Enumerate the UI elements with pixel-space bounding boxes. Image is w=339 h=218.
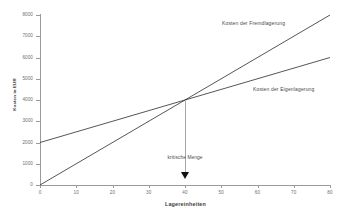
down-arrow-icon (181, 172, 189, 179)
series-label-fremdlagerung: Kosten der Fremdlagerung (222, 20, 285, 26)
kritische-menge-leader-line (185, 100, 186, 173)
series-label-eigenlagerung: Kosten der Eigenlagerung (253, 86, 314, 92)
kritische-menge-label: kritische Menge (140, 155, 230, 160)
series-lines (0, 0, 339, 218)
cost-comparison-chart: 01020304050607080 0100020003000400050006… (0, 0, 339, 218)
